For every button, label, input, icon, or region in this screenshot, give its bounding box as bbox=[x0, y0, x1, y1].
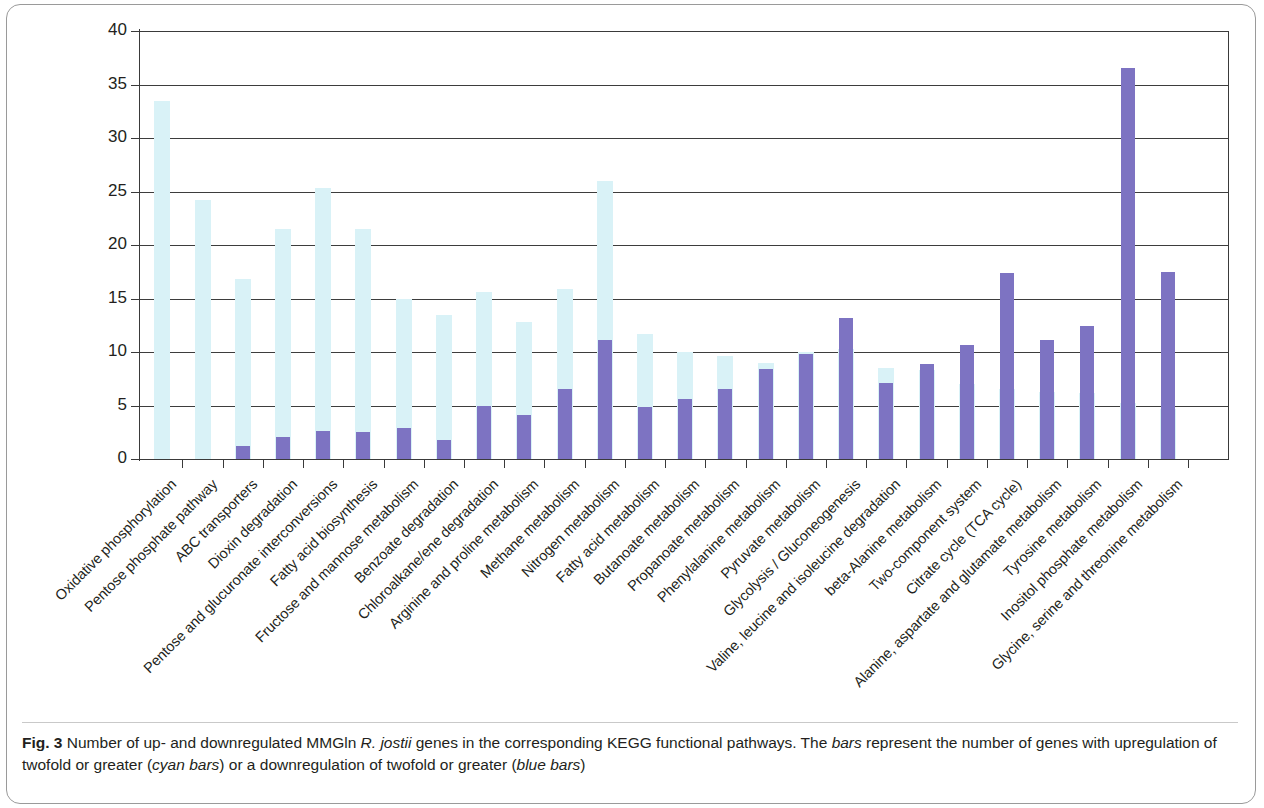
x-tick-mark bbox=[303, 459, 304, 468]
x-tick-mark bbox=[866, 459, 867, 468]
x-tick-mark bbox=[746, 459, 747, 468]
figure-page: 0510152025303540 Oxidative phosphorylati… bbox=[0, 0, 1264, 808]
bar-blue bbox=[477, 406, 491, 460]
y-tick-label: 40 bbox=[95, 20, 127, 40]
bar-blue bbox=[316, 431, 330, 459]
bar-blue bbox=[1000, 273, 1014, 459]
bar-cyan bbox=[154, 101, 170, 459]
figure-number: Fig. 3 bbox=[22, 734, 62, 751]
caption-text-2: genes in the corresponding KEGG function… bbox=[411, 734, 831, 751]
x-tick-mark bbox=[1067, 459, 1068, 468]
bar-blue bbox=[718, 389, 732, 459]
bar-cyan bbox=[195, 200, 211, 459]
bar-blue bbox=[1121, 68, 1135, 459]
y-tick-label: 15 bbox=[95, 288, 127, 308]
bar-blue bbox=[1080, 326, 1094, 459]
figure-caption: Fig. 3 Number of up- and downregulated M… bbox=[22, 732, 1227, 777]
bar-blue bbox=[437, 440, 451, 459]
bar-blue bbox=[276, 437, 290, 459]
y-tick-label: 30 bbox=[95, 127, 127, 147]
y-tick-mark bbox=[131, 459, 140, 460]
x-tick-mark bbox=[263, 459, 264, 468]
bar-blue bbox=[1161, 272, 1175, 459]
x-tick-mark bbox=[585, 459, 586, 468]
x-tick-mark bbox=[384, 459, 385, 468]
caption-text-4: ) or a downregulation of twofold or grea… bbox=[219, 756, 516, 773]
x-tick-mark bbox=[1188, 459, 1189, 468]
x-tick-mark bbox=[665, 459, 666, 468]
caption-italic-cyan: cyan bars bbox=[152, 756, 219, 773]
bar-blue bbox=[517, 415, 531, 459]
x-tick-mark bbox=[223, 459, 224, 468]
bar-blue bbox=[558, 389, 572, 459]
bar-cyan bbox=[436, 315, 452, 459]
bar-blue bbox=[236, 446, 250, 459]
bar-blue bbox=[356, 432, 370, 459]
y-tick-label: 25 bbox=[95, 181, 127, 201]
caption-italic-bars: bars bbox=[832, 734, 862, 751]
bar-blue bbox=[1040, 340, 1054, 459]
caption-italic-species: R. jostii bbox=[361, 734, 412, 751]
x-tick-mark bbox=[182, 459, 183, 468]
y-tick-label: 10 bbox=[95, 341, 127, 361]
caption-text-5: ) bbox=[580, 756, 585, 773]
x-tick-mark bbox=[504, 459, 505, 468]
x-tick-mark bbox=[826, 459, 827, 468]
bar-blue bbox=[759, 369, 773, 459]
caption-italic-blue: blue bars bbox=[517, 756, 581, 773]
x-tick-mark bbox=[786, 459, 787, 468]
x-tick-mark bbox=[1148, 459, 1149, 468]
x-tick-mark bbox=[464, 459, 465, 468]
x-tick-mark bbox=[343, 459, 344, 468]
y-tick-label: 0 bbox=[95, 448, 127, 468]
x-tick-mark bbox=[544, 459, 545, 468]
bar-blue bbox=[678, 399, 692, 459]
bar-blue bbox=[598, 340, 612, 459]
x-tick-mark bbox=[906, 459, 907, 468]
bar-blue bbox=[920, 364, 934, 459]
bar-cyan bbox=[275, 229, 291, 459]
x-tick-mark bbox=[1108, 459, 1109, 468]
bar-blue bbox=[638, 407, 652, 459]
y-tick-label: 35 bbox=[95, 74, 127, 94]
x-tick-mark bbox=[987, 459, 988, 468]
bar-blue bbox=[879, 383, 893, 459]
x-tick-mark bbox=[947, 459, 948, 468]
bar-blue bbox=[397, 428, 411, 459]
bar-cyan bbox=[355, 229, 371, 459]
caption-text-1: Number of up- and downregulated MMGln bbox=[62, 734, 360, 751]
x-tick-mark bbox=[1027, 459, 1028, 468]
x-tick-mark bbox=[625, 459, 626, 468]
bar-blue bbox=[799, 354, 813, 459]
y-tick-label: 20 bbox=[95, 234, 127, 254]
caption-divider bbox=[22, 722, 1238, 723]
x-tick-mark bbox=[424, 459, 425, 468]
bar-cyan bbox=[315, 188, 331, 459]
bar-cyan bbox=[235, 279, 251, 459]
bar-blue bbox=[960, 345, 974, 459]
x-tick-mark bbox=[705, 459, 706, 468]
y-tick-label: 5 bbox=[95, 395, 127, 415]
bar-blue bbox=[839, 318, 853, 459]
bars-layer bbox=[139, 31, 1229, 459]
